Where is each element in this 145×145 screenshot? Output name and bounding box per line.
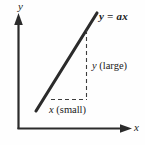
x-axis-label: x <box>134 122 139 133</box>
run-annotation-label: x (small) <box>49 105 86 116</box>
run-symbol: x <box>49 104 54 115</box>
equation-label: y = ax <box>99 11 128 22</box>
y-axis-arrowhead <box>14 13 23 25</box>
x-axis-arrowhead <box>120 124 132 133</box>
rise-annotation-label: y (large) <box>92 61 127 72</box>
y-axis-label: y <box>18 1 23 12</box>
run-qualifier: (small) <box>56 104 86 115</box>
rise-qualifier: (large) <box>99 60 127 71</box>
proportionality-figure: y x y = ax y (large) x (small) <box>0 0 145 145</box>
equation-line <box>36 13 97 111</box>
rise-symbol: y <box>92 60 97 71</box>
